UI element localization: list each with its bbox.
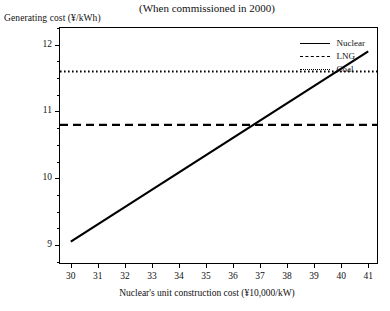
x-tick-label: 31	[93, 272, 103, 282]
y-tick-minor	[57, 212, 61, 213]
x-tick-label: 34	[174, 272, 184, 282]
x-tick-major	[260, 263, 261, 268]
x-tick-label: 39	[309, 272, 319, 282]
y-tick-minor	[57, 95, 61, 96]
x-tick-label: 40	[336, 272, 346, 282]
y-tick-label: 11	[43, 107, 52, 117]
x-tick-label: 30	[66, 272, 76, 282]
y-tick-minor	[57, 28, 61, 29]
x-tick-major	[341, 263, 342, 268]
y-tick-minor	[57, 78, 61, 79]
y-axis-title: Generating cost (¥/kWh)	[4, 13, 101, 23]
y-tick-label: 12	[43, 40, 53, 50]
legend-label: LNG	[337, 52, 356, 61]
legend-key-solid-icon	[300, 43, 330, 44]
x-tick-major	[206, 263, 207, 268]
y-tick-major	[55, 111, 60, 112]
chart-page: Generating cost (¥/kWh) (When commission…	[0, 0, 390, 311]
y-tick-label: 9	[47, 240, 52, 250]
chart-legend: NuclearLNGCoal	[300, 37, 365, 76]
legend-label: Nuclear	[337, 39, 365, 48]
legend-key-dashed-icon	[300, 56, 330, 57]
x-tick-label: 35	[201, 272, 211, 282]
x-tick-major	[98, 263, 99, 268]
x-tick-label: 41	[363, 272, 373, 282]
y-tick-minor	[57, 128, 61, 129]
legend-item-nuclear: Nuclear	[300, 37, 365, 50]
x-tick-major	[233, 263, 234, 268]
x-tick-label: 37	[255, 272, 265, 282]
x-tick-major	[179, 263, 180, 268]
series-line-nuclear	[71, 51, 368, 241]
x-tick-major	[71, 263, 72, 268]
x-tick-major	[368, 263, 369, 268]
x-tick-major	[152, 263, 153, 268]
y-tick-minor	[57, 145, 61, 146]
legend-item-lng: LNG	[300, 50, 365, 63]
x-tick-label: 32	[120, 272, 130, 282]
x-tick-major	[125, 263, 126, 268]
x-tick-major	[314, 263, 315, 268]
x-tick-major	[287, 263, 288, 268]
legend-key-dotted-icon	[300, 69, 330, 70]
y-tick-minor	[57, 195, 61, 196]
chart-title: (When commissioned in 2000)	[0, 2, 390, 14]
y-tick-minor	[57, 228, 61, 229]
plot-frame: 9101112 303132333435363738394041 Nuclear…	[59, 27, 378, 264]
y-tick-minor	[57, 262, 61, 263]
x-axis-title: Nuclear's unit construction cost (¥10,00…	[0, 288, 390, 298]
y-tick-minor	[57, 162, 61, 163]
y-tick-major	[55, 178, 60, 179]
y-tick-major	[55, 45, 60, 46]
y-tick-major	[55, 245, 60, 246]
legend-label: Coal	[337, 65, 354, 74]
x-tick-label: 38	[282, 272, 292, 282]
y-tick-label: 10	[43, 173, 53, 183]
y-tick-minor	[57, 61, 61, 62]
x-tick-label: 33	[147, 272, 157, 282]
x-tick-label: 36	[228, 272, 238, 282]
legend-item-coal: Coal	[300, 63, 365, 76]
